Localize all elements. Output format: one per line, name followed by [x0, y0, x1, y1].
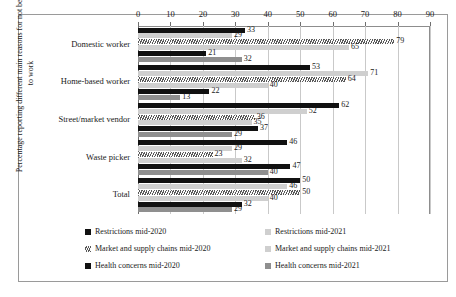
bar-value-label: 52	[307, 106, 317, 115]
x-tick-mark	[430, 22, 431, 26]
x-tick-label: 40	[253, 9, 283, 19]
bar-value-label: 29	[232, 143, 242, 152]
legend-item[interactable]: Market and supply chains mid-2020	[85, 240, 255, 257]
bar[interactable]	[138, 132, 232, 137]
legend-label: Restrictions mid-2021	[275, 227, 346, 236]
bar-value-label: 53	[310, 62, 320, 71]
gridline	[430, 26, 431, 214]
bar[interactable]	[138, 83, 268, 88]
bar[interactable]	[138, 28, 245, 33]
bar-value-label: 40	[268, 167, 278, 176]
x-tick-label: 60	[318, 9, 348, 19]
legend-item[interactable]: Health concerns mid-2021	[265, 257, 435, 274]
bar-value-label: 13	[180, 92, 190, 101]
x-tick-label: 10	[155, 9, 185, 19]
legend-item[interactable]: Health concerns mid-2020	[85, 257, 255, 274]
x-tick-label: 70	[350, 9, 380, 19]
bar-group: Total504650403229	[138, 176, 430, 214]
bar-value-label: 50	[300, 175, 310, 184]
bar-value-label: 32	[242, 54, 252, 63]
bar-value-label: 46	[287, 181, 297, 190]
chart-legend: Restrictions mid-2020Restrictions mid-20…	[85, 223, 435, 274]
legend-item[interactable]: Restrictions mid-2020	[85, 223, 255, 240]
bar-group: Domestic worker332979652132	[138, 26, 430, 64]
bar-value-label: 79	[394, 36, 404, 45]
category-label: Street/market vendor	[0, 114, 130, 124]
chart-page: Percentage reporting different main reas…	[0, 0, 456, 297]
category-label: Waste picker	[0, 152, 130, 162]
plot-area: 0102030405060708090Domestic worker332979…	[138, 26, 430, 214]
bar-value-label: 32	[242, 199, 252, 208]
bar[interactable]	[138, 71, 368, 76]
bar[interactable]	[138, 120, 252, 125]
legend-swatch-icon	[265, 263, 271, 269]
bar-value-label: 47	[290, 161, 300, 170]
legend-item[interactable]: Market and supply chains mid-2021	[265, 240, 435, 257]
bar[interactable]	[138, 95, 180, 100]
category-label: Domestic worker	[0, 39, 130, 49]
bar[interactable]	[138, 178, 300, 183]
bar[interactable]	[138, 202, 242, 207]
bar-group: Waste picker462923324740	[138, 139, 430, 177]
legend-item[interactable]: Restrictions mid-2021	[265, 223, 435, 240]
x-tick-label: 30	[220, 9, 250, 19]
bar[interactable]	[138, 158, 242, 163]
bar-value-label: 23	[213, 149, 223, 158]
bar-value-label: 46	[287, 137, 297, 146]
bar[interactable]	[138, 207, 232, 212]
bar-value-label: 71	[368, 68, 378, 77]
bar-value-label: 29	[232, 30, 242, 39]
bar[interactable]	[138, 65, 310, 70]
bar-group: Home-based worker537164402213	[138, 64, 430, 102]
bar[interactable]	[138, 45, 349, 50]
bar[interactable]	[138, 77, 346, 82]
legend-label: Market and supply chains mid-2020	[95, 244, 211, 253]
bar-value-label: 40	[268, 80, 278, 89]
bar[interactable]	[138, 89, 209, 94]
bar[interactable]	[138, 33, 232, 38]
legend-label: Health concerns mid-2021	[275, 261, 360, 270]
bar-value-label: 22	[209, 86, 219, 95]
legend-swatch-icon	[85, 263, 91, 269]
bar-value-label: 32	[242, 155, 252, 164]
x-tick-label: 90	[415, 9, 445, 19]
legend-label: Health concerns mid-2020	[95, 261, 180, 270]
bar-value-label: 29	[232, 204, 242, 213]
bar[interactable]	[138, 51, 206, 56]
x-tick-label: 0	[123, 9, 153, 19]
legend-swatch-icon	[265, 229, 271, 235]
y-axis-title: Percentage reporting different main reas…	[14, 0, 36, 173]
legend-swatch-icon	[85, 246, 91, 252]
bar[interactable]	[138, 140, 287, 145]
bar-value-label: 21	[206, 48, 216, 57]
bar-value-label: 40	[268, 193, 278, 202]
category-label: Home-based worker	[0, 76, 130, 86]
x-tick-label: 50	[285, 9, 315, 19]
x-tick-label: 80	[383, 9, 413, 19]
bar-value-label: 33	[245, 25, 255, 34]
bar-value-label: 62	[339, 100, 349, 109]
bar[interactable]	[138, 152, 213, 157]
bar[interactable]	[138, 115, 255, 120]
legend-swatch-icon	[85, 229, 91, 235]
bar[interactable]	[138, 184, 287, 189]
bar-value-label: 37	[258, 123, 268, 132]
bar[interactable]	[138, 109, 307, 114]
bar-value-label: 64	[346, 74, 356, 83]
bar-group: Street/market vendor625236353729	[138, 101, 430, 139]
bar-value-label: 50	[300, 187, 310, 196]
legend-label: Market and supply chains mid-2021	[275, 244, 391, 253]
x-tick-label: 20	[188, 9, 218, 19]
legend-label: Restrictions mid-2020	[95, 227, 166, 236]
bar[interactable]	[138, 170, 268, 175]
bar-value-label: 65	[349, 42, 359, 51]
legend-swatch-icon	[265, 246, 271, 252]
bar[interactable]	[138, 57, 242, 62]
bar-value-label: 29	[232, 129, 242, 138]
category-label: Total	[0, 189, 130, 199]
